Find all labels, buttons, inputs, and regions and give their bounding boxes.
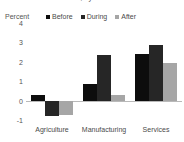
y-axis-unit-label: Percent — [5, 13, 29, 21]
legend-item-during[interactable]: During — [81, 13, 108, 21]
chart-legend: BeforeDuringAfter — [46, 13, 136, 21]
legend-label: During — [87, 13, 108, 21]
y-axis-tick-label: 0 — [19, 97, 23, 104]
legend-swatch-icon — [81, 15, 85, 19]
bar-group — [78, 23, 130, 120]
y-axis-tick-label: 4 — [19, 20, 23, 27]
bar-agriculture-before[interactable] — [31, 95, 45, 101]
x-axis-label-agriculture: Agriculture — [26, 125, 78, 134]
bar-groups — [26, 23, 182, 120]
bar-manufacturing-during[interactable] — [97, 55, 111, 101]
bar-group — [130, 23, 182, 120]
chart-title: Growth in Value Added, by Sector — [4, 0, 180, 2]
y-axis-tick-label: 2 — [19, 58, 23, 65]
y-axis-tick-label: -1 — [17, 117, 23, 124]
x-axis-label-services: Services — [130, 125, 182, 134]
bar-manufacturing-after[interactable] — [111, 95, 125, 101]
legend-swatch-icon — [46, 15, 50, 19]
legend-swatch-icon — [115, 15, 119, 19]
bar-manufacturing-before[interactable] — [83, 84, 97, 100]
bar-agriculture-after[interactable] — [59, 101, 73, 116]
plot-area: 43210-1 — [26, 23, 182, 120]
legend-item-before[interactable]: Before — [46, 13, 73, 21]
y-axis-tick-label: 1 — [19, 78, 23, 85]
x-axis-label-manufacturing: Manufacturing — [78, 125, 130, 134]
legend-label: Before — [52, 13, 73, 21]
legend-item-after[interactable]: After — [115, 13, 136, 21]
x-axis-category-labels: AgricultureManufacturingServices — [26, 125, 182, 134]
legend-label: After — [121, 13, 136, 21]
bar-services-after[interactable] — [163, 63, 177, 101]
bar-services-during[interactable] — [149, 45, 163, 100]
bar-group — [26, 23, 78, 120]
bar-services-before[interactable] — [135, 54, 149, 101]
bar-agriculture-during[interactable] — [45, 101, 59, 117]
y-axis-tick-label: 3 — [19, 39, 23, 46]
